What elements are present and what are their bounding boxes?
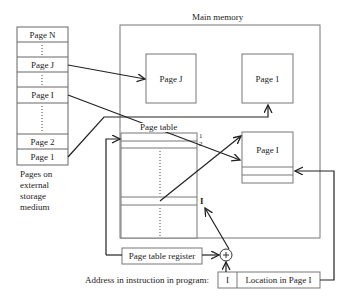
page-table-index-1: 1 [199, 133, 203, 140]
disk-page-n: Page N [17, 27, 68, 42]
storage-caption-3: storage [20, 192, 46, 201]
address-caption: Address in instruction in program: [85, 276, 209, 285]
disk-page-i: Page I [17, 87, 68, 103]
page-table-index-i: I [200, 197, 204, 206]
storage-caption-2: external [20, 181, 49, 190]
disk-page-1: Page 1 [17, 149, 68, 165]
storage-caption-1: Pages on [20, 170, 52, 179]
disk-page-j: Page J [17, 57, 68, 72]
frame-page-1: Page 1 [242, 54, 293, 103]
page-table-register: Page table register [122, 248, 202, 264]
frame-page-i: Page I [242, 132, 293, 167]
disk-page-2: Page 2 [17, 134, 68, 149]
frame-page-j: Page J [146, 54, 196, 103]
page-table-title: Page table [140, 123, 177, 132]
page-table-index-2: 2 [199, 141, 203, 148]
storage-caption-4: medium [20, 203, 50, 212]
main-memory-title: Main memory [192, 13, 243, 22]
page-table-box [121, 133, 197, 238]
address-offset-field: Location in Page I [237, 272, 320, 288]
address-page-field: I [218, 272, 237, 288]
